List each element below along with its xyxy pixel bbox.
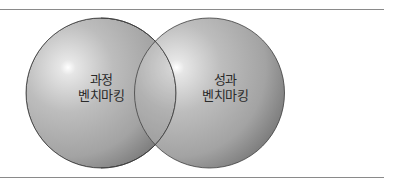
label-performance-line2: 벤치마킹	[180, 88, 270, 104]
label-performance-benchmarking: 성과 벤치마킹	[180, 72, 270, 104]
label-process-line1: 과정	[56, 72, 146, 88]
label-process-line2: 벤치마킹	[56, 88, 146, 104]
label-performance-line1: 성과	[180, 72, 270, 88]
label-process-benchmarking: 과정 벤치마킹	[56, 72, 146, 104]
